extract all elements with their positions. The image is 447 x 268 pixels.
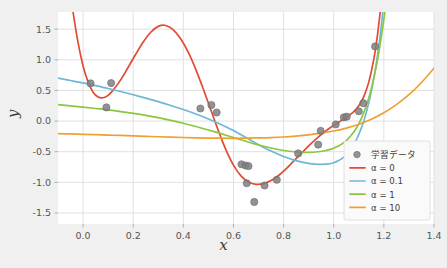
legend-label: α = 0 [371, 163, 395, 173]
scatter-point [273, 176, 280, 183]
y-tick-label: -1.0 [32, 177, 51, 188]
legend-label: α = 10 [371, 203, 400, 213]
y-tick-label: 0.0 [36, 115, 51, 126]
legend-label: 学習データ [371, 149, 416, 160]
scatter-point [355, 108, 362, 115]
y-tick-label: -0.5 [32, 146, 51, 157]
scatter-point [208, 101, 215, 108]
legend-marker-scatter [354, 151, 361, 158]
scatter-point [251, 198, 258, 205]
y-tick-label: 1.0 [36, 54, 51, 65]
y-tick-label: -1.5 [32, 207, 51, 218]
legend-label: α = 1 [371, 190, 395, 200]
scatter-point [103, 104, 110, 111]
scatter-point [87, 80, 94, 87]
scatter-point [332, 121, 339, 128]
scatter-point [371, 43, 378, 50]
scatter-point [343, 113, 350, 120]
scatter-point [197, 105, 204, 112]
y-axis-label: y [4, 110, 22, 118]
scatter-point [360, 100, 367, 107]
figure: 0.00.20.40.60.81.01.21.4 1.51.00.50.0-0.… [0, 0, 447, 268]
legend[interactable]: 学習データα = 0α = 0.1α = 1α = 10 [344, 141, 430, 220]
chart-canvas: 0.00.20.40.60.81.01.21.4 1.51.00.50.0-0.… [0, 0, 447, 268]
y-tick-label: 1.5 [36, 24, 51, 35]
scatter-point [243, 180, 250, 187]
x-axis-label: x [0, 236, 447, 254]
scatter-point [315, 141, 322, 148]
y-tick-label: 0.5 [36, 85, 51, 96]
legend-label: α = 0.1 [371, 176, 403, 186]
y-axis-tick-labels: 1.51.00.50.0-0.5-1.0-1.5 [32, 24, 51, 219]
scatter-point [295, 150, 302, 157]
scatter-point [108, 79, 115, 86]
scatter-point [261, 182, 268, 189]
scatter-point [213, 109, 220, 116]
scatter-point [245, 163, 252, 170]
scatter-point [317, 127, 324, 134]
